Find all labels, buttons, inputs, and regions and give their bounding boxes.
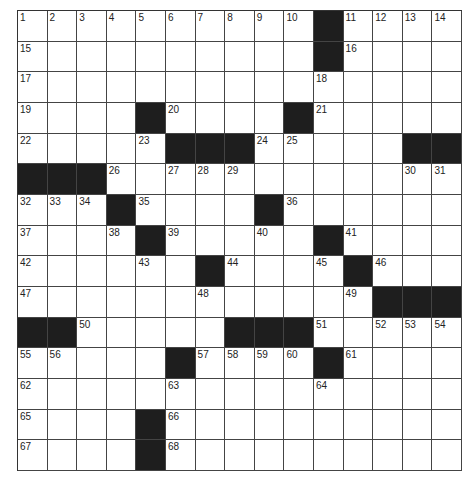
grid-cell[interactable] bbox=[48, 410, 78, 441]
grid-cell[interactable] bbox=[225, 42, 255, 73]
grid-cell[interactable] bbox=[432, 410, 462, 441]
grid-cell[interactable] bbox=[225, 440, 255, 471]
grid-cell[interactable] bbox=[314, 440, 344, 471]
grid-cell[interactable] bbox=[403, 379, 433, 410]
grid-cell[interactable] bbox=[166, 318, 196, 349]
grid-cell[interactable] bbox=[107, 134, 137, 165]
grid-cell[interactable]: 46 bbox=[373, 256, 403, 287]
grid-cell[interactable] bbox=[107, 103, 137, 134]
grid-cell[interactable] bbox=[107, 42, 137, 73]
grid-cell[interactable] bbox=[77, 226, 107, 257]
grid-cell[interactable] bbox=[196, 318, 226, 349]
grid-cell[interactable] bbox=[77, 410, 107, 441]
grid-cell[interactable] bbox=[373, 103, 403, 134]
grid-cell[interactable]: 39 bbox=[166, 226, 196, 257]
grid-cell[interactable] bbox=[344, 72, 374, 103]
grid-cell[interactable]: 38 bbox=[107, 226, 137, 257]
grid-cell[interactable] bbox=[284, 440, 314, 471]
grid-cell[interactable]: 43 bbox=[136, 256, 166, 287]
grid-cell[interactable] bbox=[373, 379, 403, 410]
grid-cell[interactable] bbox=[166, 195, 196, 226]
grid-cell[interactable]: 12 bbox=[373, 11, 403, 42]
grid-cell[interactable]: 47 bbox=[18, 287, 48, 318]
grid-cell[interactable] bbox=[77, 440, 107, 471]
grid-cell[interactable] bbox=[403, 440, 433, 471]
grid-cell[interactable]: 52 bbox=[373, 318, 403, 349]
grid-cell[interactable] bbox=[136, 348, 166, 379]
grid-cell[interactable]: 15 bbox=[18, 42, 48, 73]
grid-cell[interactable] bbox=[255, 256, 285, 287]
grid-cell[interactable] bbox=[432, 195, 462, 226]
grid-cell[interactable]: 27 bbox=[166, 164, 196, 195]
grid-cell[interactable]: 19 bbox=[18, 103, 48, 134]
grid-cell[interactable]: 21 bbox=[314, 103, 344, 134]
grid-cell[interactable] bbox=[344, 103, 374, 134]
grid-cell[interactable]: 17 bbox=[18, 72, 48, 103]
grid-cell[interactable]: 62 bbox=[18, 379, 48, 410]
grid-cell[interactable] bbox=[432, 103, 462, 134]
grid-cell[interactable] bbox=[344, 379, 374, 410]
grid-cell[interactable]: 44 bbox=[225, 256, 255, 287]
grid-cell[interactable] bbox=[77, 103, 107, 134]
grid-cell[interactable] bbox=[432, 379, 462, 410]
grid-cell[interactable] bbox=[255, 410, 285, 441]
grid-cell[interactable] bbox=[373, 348, 403, 379]
grid-cell[interactable]: 41 bbox=[344, 226, 374, 257]
grid-cell[interactable] bbox=[107, 256, 137, 287]
grid-cell[interactable]: 7 bbox=[196, 11, 226, 42]
grid-cell[interactable] bbox=[77, 379, 107, 410]
grid-cell[interactable]: 31 bbox=[432, 164, 462, 195]
grid-cell[interactable] bbox=[225, 72, 255, 103]
grid-cell[interactable]: 57 bbox=[196, 348, 226, 379]
grid-cell[interactable] bbox=[196, 195, 226, 226]
grid-cell[interactable]: 64 bbox=[314, 379, 344, 410]
grid-cell[interactable] bbox=[403, 103, 433, 134]
grid-cell[interactable] bbox=[284, 379, 314, 410]
grid-cell[interactable] bbox=[225, 287, 255, 318]
grid-cell[interactable]: 8 bbox=[225, 11, 255, 42]
grid-cell[interactable]: 68 bbox=[166, 440, 196, 471]
grid-cell[interactable] bbox=[373, 164, 403, 195]
grid-cell[interactable]: 59 bbox=[255, 348, 285, 379]
grid-cell[interactable]: 49 bbox=[344, 287, 374, 318]
grid-cell[interactable] bbox=[48, 440, 78, 471]
grid-cell[interactable] bbox=[284, 256, 314, 287]
grid-cell[interactable] bbox=[48, 379, 78, 410]
grid-cell[interactable] bbox=[107, 348, 137, 379]
grid-cell[interactable] bbox=[77, 134, 107, 165]
grid-cell[interactable]: 34 bbox=[77, 195, 107, 226]
grid-cell[interactable] bbox=[403, 42, 433, 73]
grid-cell[interactable] bbox=[403, 256, 433, 287]
grid-cell[interactable] bbox=[314, 164, 344, 195]
grid-cell[interactable] bbox=[77, 287, 107, 318]
grid-cell[interactable] bbox=[225, 410, 255, 441]
grid-cell[interactable]: 4 bbox=[107, 11, 137, 42]
grid-cell[interactable] bbox=[373, 226, 403, 257]
grid-cell[interactable]: 33 bbox=[48, 195, 78, 226]
grid-cell[interactable] bbox=[196, 379, 226, 410]
grid-cell[interactable]: 60 bbox=[284, 348, 314, 379]
grid-cell[interactable]: 66 bbox=[166, 410, 196, 441]
grid-cell[interactable] bbox=[107, 72, 137, 103]
grid-cell[interactable] bbox=[166, 42, 196, 73]
grid-cell[interactable] bbox=[373, 134, 403, 165]
grid-cell[interactable] bbox=[225, 226, 255, 257]
grid-cell[interactable] bbox=[225, 103, 255, 134]
grid-cell[interactable] bbox=[196, 42, 226, 73]
grid-cell[interactable]: 14 bbox=[432, 11, 462, 42]
grid-cell[interactable] bbox=[48, 103, 78, 134]
grid-cell[interactable] bbox=[344, 440, 374, 471]
grid-cell[interactable]: 30 bbox=[403, 164, 433, 195]
grid-cell[interactable]: 67 bbox=[18, 440, 48, 471]
grid-cell[interactable] bbox=[48, 42, 78, 73]
grid-cell[interactable] bbox=[255, 440, 285, 471]
grid-cell[interactable] bbox=[166, 256, 196, 287]
grid-cell[interactable] bbox=[284, 42, 314, 73]
grid-cell[interactable] bbox=[344, 318, 374, 349]
grid-cell[interactable]: 28 bbox=[196, 164, 226, 195]
grid-cell[interactable] bbox=[314, 134, 344, 165]
grid-cell[interactable] bbox=[403, 226, 433, 257]
grid-cell[interactable] bbox=[403, 410, 433, 441]
grid-cell[interactable] bbox=[136, 287, 166, 318]
grid-cell[interactable] bbox=[166, 287, 196, 318]
